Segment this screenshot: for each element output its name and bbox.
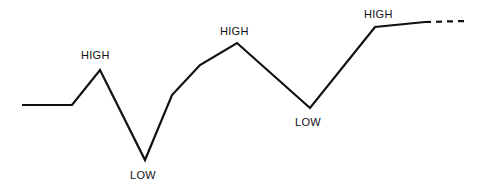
chart-canvas: HIGH LOW HIGH LOW HIGH: [0, 0, 480, 193]
projection-line: [425, 21, 466, 22]
annotation-label-low-1: LOW: [130, 169, 156, 181]
annotation-label-high-3: HIGH: [364, 8, 393, 20]
price-swing-line: [22, 22, 425, 160]
annotation-label-high-1: HIGH: [81, 49, 110, 61]
annotation-label-low-2: LOW: [295, 116, 321, 128]
annotation-label-high-2: HIGH: [220, 25, 249, 37]
